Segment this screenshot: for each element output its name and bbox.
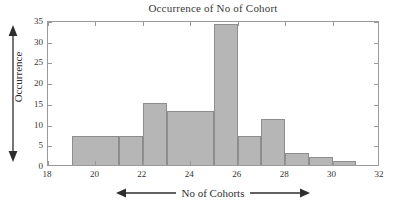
x-tick-label: 18	[43, 169, 52, 179]
x-tick-label: 20	[90, 169, 99, 179]
x-tick-label: 22	[137, 169, 146, 179]
histogram-bar	[238, 136, 262, 165]
histogram-bar	[167, 111, 214, 165]
x-tick-mark	[285, 161, 286, 165]
histogram-bar	[309, 157, 333, 165]
histogram-bar	[333, 161, 357, 165]
x-tick-mark	[95, 161, 96, 165]
x-tick-label: 24	[185, 169, 194, 179]
histogram-figure: Occurrence of No of Cohort 1820222426283…	[0, 0, 409, 204]
x-tick-label: 28	[280, 169, 289, 179]
y-tick-mark-right	[374, 126, 378, 127]
x-tick-mark	[143, 161, 144, 165]
plot-area	[47, 21, 379, 166]
x-tick-mark	[48, 161, 49, 165]
x-tick-label: 26	[232, 169, 241, 179]
x-tick-mark	[190, 161, 191, 165]
y-tick-mark-right	[374, 43, 378, 44]
x-tick-mark-top	[285, 22, 286, 26]
x-tick-mark-top	[95, 22, 96, 26]
x-tick-mark-top	[143, 22, 144, 26]
x-axis-title-group: No of Cohorts	[47, 184, 379, 202]
x-tick-mark-top	[333, 22, 334, 26]
y-tick-mark	[48, 43, 52, 44]
y-tick-mark	[48, 63, 52, 64]
histogram-bar	[285, 153, 309, 165]
y-tick-mark	[48, 146, 52, 147]
chart-title: Occurrence of No of Cohort	[47, 2, 379, 14]
histogram-bar	[214, 24, 238, 165]
y-tick-mark	[48, 126, 52, 127]
x-tick-mark	[333, 161, 334, 165]
x-axis-title: No of Cohorts	[179, 187, 248, 199]
y-tick-mark	[48, 22, 52, 23]
y-tick-mark-right	[374, 84, 378, 85]
y-axis-title: Occurrence	[12, 37, 24, 117]
y-tick-mark	[48, 84, 52, 85]
y-tick-mark-right	[374, 146, 378, 147]
histogram-bar	[261, 119, 285, 165]
y-tick-mark	[48, 105, 52, 106]
y-axis-title-group: Occurrence	[2, 21, 34, 166]
y-tick-mark-right	[374, 105, 378, 106]
x-tick-mark-top	[190, 22, 191, 26]
arrow-left-icon	[115, 187, 177, 199]
histogram-bar	[143, 103, 167, 165]
arrow-right-icon	[249, 187, 311, 199]
histogram-bar	[119, 136, 143, 165]
x-tick-mark-top	[238, 22, 239, 26]
y-tick-mark-right	[374, 63, 378, 64]
y-tick-mark-right	[374, 22, 378, 23]
x-tick-label: 30	[327, 169, 336, 179]
x-tick-label: 32	[375, 169, 384, 179]
x-tick-mark	[238, 161, 239, 165]
